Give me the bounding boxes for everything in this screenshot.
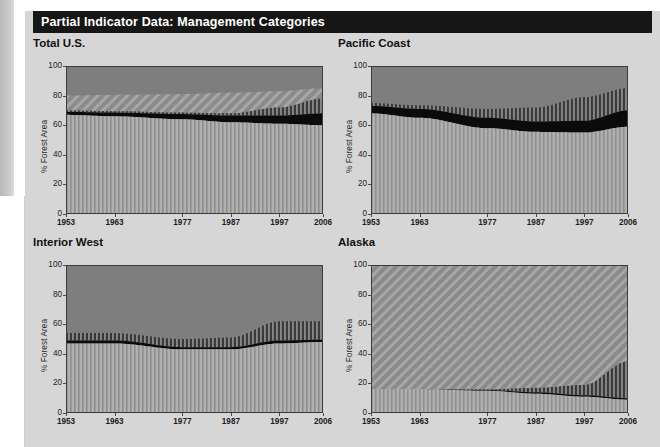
y-tick-label: 0 — [43, 408, 62, 417]
x-tick-mark — [323, 413, 324, 416]
y-tick-label: 40 — [43, 150, 62, 159]
x-tick-mark — [371, 214, 372, 217]
x-tick-label: 1963 — [403, 218, 437, 227]
y-tick-label: 40 — [43, 349, 62, 358]
x-tick-label: 1987 — [214, 417, 248, 426]
y-tick-label: 0 — [43, 209, 62, 218]
x-tick-mark — [536, 413, 537, 416]
x-tick-label: 1987 — [214, 218, 248, 227]
y-tick-label: 100 — [43, 61, 62, 70]
x-tick-label: 1963 — [403, 417, 437, 426]
x-tick-mark — [182, 413, 183, 416]
x-tick-mark — [584, 214, 585, 217]
x-tick-mark — [231, 413, 232, 416]
x-tick-label: 1963 — [98, 218, 132, 227]
page-title: Partial Indicator Data: Management Categ… — [33, 15, 325, 29]
x-tick-mark — [323, 214, 324, 217]
chart-panel-total-u-s: Total U.S.% Forest Area02040608010019531… — [33, 37, 337, 236]
stacked-area-plot — [66, 265, 323, 413]
x-tick-mark — [66, 214, 67, 217]
x-tick-label: 1997 — [262, 417, 296, 426]
y-tick-label: 80 — [43, 91, 62, 100]
x-tick-label: 1987 — [519, 417, 553, 426]
figure-title-bar: Partial Indicator Data: Management Categ… — [33, 11, 652, 33]
x-tick-label: 1997 — [567, 417, 601, 426]
y-tick-label: 0 — [348, 209, 367, 218]
panel-title: Alaska — [338, 236, 375, 248]
y-tick-label: 100 — [348, 61, 367, 70]
x-tick-label: 1953 — [49, 218, 83, 227]
chart-panel-alaska: Alaska% Forest Area020406080100195319631… — [338, 236, 642, 435]
x-tick-mark — [231, 214, 232, 217]
x-tick-label: 1953 — [354, 417, 388, 426]
x-tick-label: 1953 — [354, 218, 388, 227]
x-tick-mark — [584, 413, 585, 416]
y-tick-label: 100 — [43, 260, 62, 269]
x-tick-label: 1977 — [470, 218, 504, 227]
x-tick-mark — [66, 413, 67, 416]
x-tick-mark — [628, 214, 629, 217]
x-tick-mark — [628, 413, 629, 416]
x-tick-mark — [115, 413, 116, 416]
x-tick-label: 2006 — [306, 417, 340, 426]
stacked-area-plot — [66, 66, 323, 214]
y-tick-label: 60 — [348, 319, 367, 328]
chart-panel-interior-west: Interior West% Forest Area02040608010019… — [33, 236, 337, 435]
x-tick-label: 1987 — [519, 218, 553, 227]
x-tick-label: 1977 — [470, 417, 504, 426]
x-tick-mark — [487, 413, 488, 416]
x-tick-label: 1997 — [567, 218, 601, 227]
panel-title: Pacific Coast — [338, 37, 410, 49]
y-tick-label: 80 — [348, 290, 367, 299]
x-tick-mark — [279, 413, 280, 416]
y-tick-label: 20 — [348, 378, 367, 387]
x-tick-label: 1977 — [165, 417, 199, 426]
stacked-area-plot — [371, 66, 628, 214]
plot-area — [371, 265, 628, 413]
chart-panel-pacific-coast: Pacific Coast% Forest Area02040608010019… — [338, 37, 642, 236]
y-tick-label: 20 — [43, 179, 62, 188]
x-tick-mark — [279, 214, 280, 217]
x-tick-label: 1963 — [98, 417, 132, 426]
x-tick-mark — [115, 214, 116, 217]
y-tick-label: 20 — [348, 179, 367, 188]
y-tick-label: 20 — [43, 378, 62, 387]
panel-title: Interior West — [33, 236, 103, 248]
y-tick-label: 60 — [348, 120, 367, 129]
page-edge-shadow — [0, 0, 14, 196]
y-tick-label: 80 — [43, 290, 62, 299]
y-tick-label: 40 — [348, 349, 367, 358]
x-tick-mark — [371, 413, 372, 416]
figure-container: Partial Indicator Data: Management Categ… — [25, 0, 660, 447]
x-tick-label: 1997 — [262, 218, 296, 227]
x-tick-label: 2006 — [611, 218, 645, 227]
y-tick-label: 60 — [43, 120, 62, 129]
panel-title: Total U.S. — [33, 37, 85, 49]
y-tick-label: 0 — [348, 408, 367, 417]
x-tick-mark — [487, 214, 488, 217]
figure-top-margin — [25, 0, 660, 11]
y-tick-label: 60 — [43, 319, 62, 328]
x-tick-mark — [536, 214, 537, 217]
x-tick-label: 1953 — [49, 417, 83, 426]
x-tick-mark — [420, 413, 421, 416]
y-tick-label: 40 — [348, 150, 367, 159]
x-tick-mark — [420, 214, 421, 217]
plot-area — [66, 265, 323, 413]
x-tick-mark — [182, 214, 183, 217]
stacked-area-plot — [371, 265, 628, 413]
y-tick-label: 80 — [348, 91, 367, 100]
x-tick-label: 2006 — [611, 417, 645, 426]
y-tick-label: 100 — [348, 260, 367, 269]
plot-area — [371, 66, 628, 214]
plot-area — [66, 66, 323, 214]
x-tick-label: 1977 — [165, 218, 199, 227]
x-tick-label: 2006 — [306, 218, 340, 227]
